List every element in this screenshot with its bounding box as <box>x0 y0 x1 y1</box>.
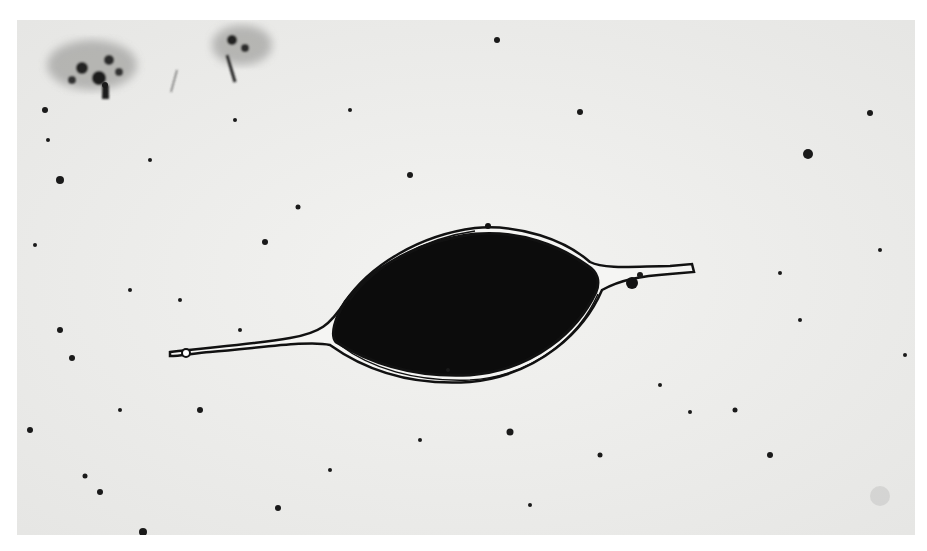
out-of-focus-particle <box>870 486 890 506</box>
micrograph-canvas <box>17 20 915 535</box>
micrograph <box>17 20 915 535</box>
